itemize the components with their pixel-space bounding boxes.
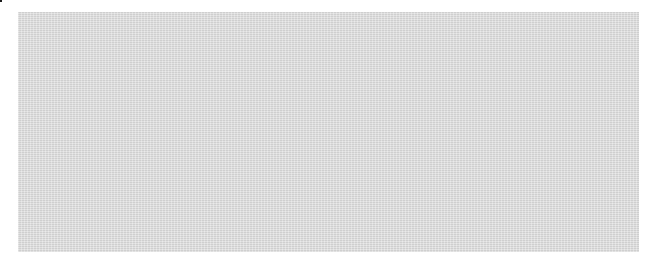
figure-stage bbox=[0, 0, 659, 264]
ego-label-box[interactable] bbox=[0, 0, 2, 2]
kinship-diagram bbox=[0, 0, 659, 264]
